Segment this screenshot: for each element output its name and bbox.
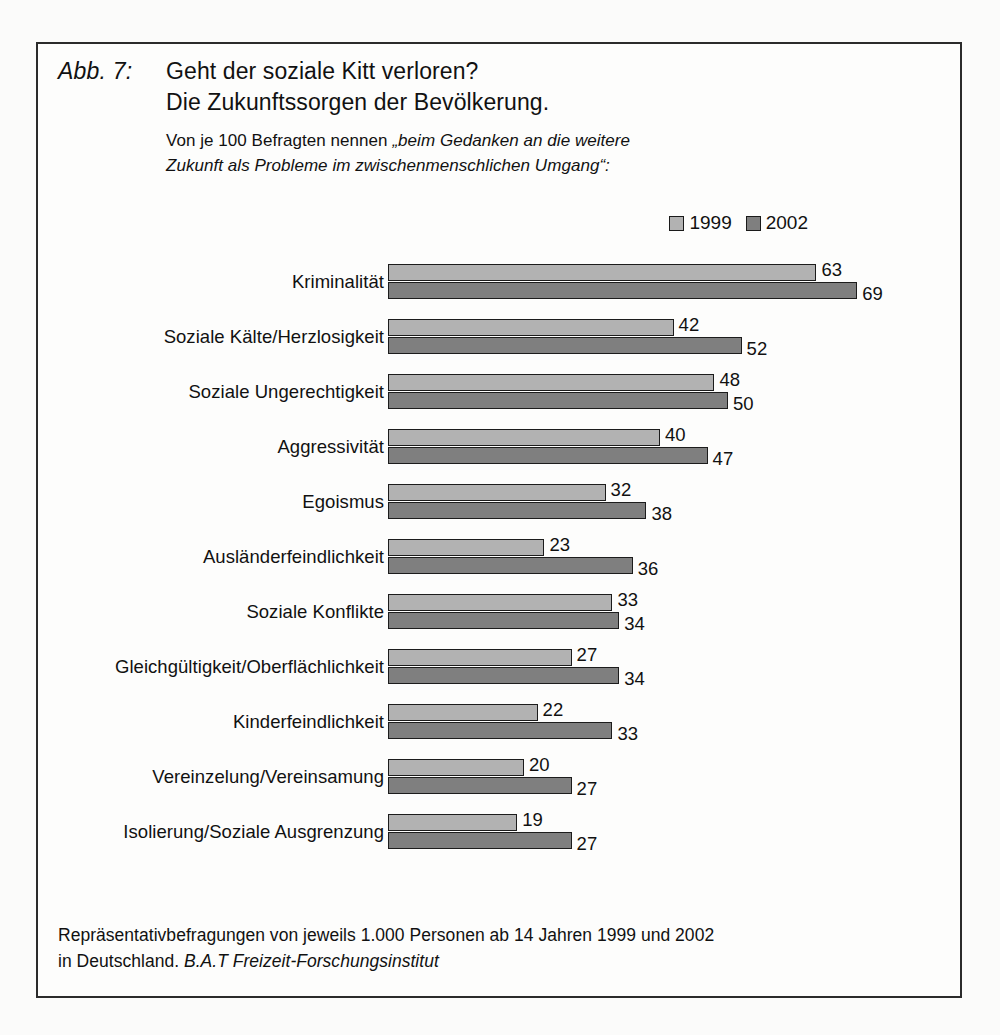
chart-row: Gleichgültigkeit/Oberflächlichkeit2734 (38, 643, 960, 698)
category-label: Gleichgültigkeit/Oberflächlichkeit (0, 656, 384, 678)
figure-number-label: Abb. 7: (58, 56, 166, 85)
bar-1999[interactable]: 19 (388, 814, 517, 831)
bar-group: 6369 (388, 264, 857, 299)
legend-entry-2002[interactable]: 2002 (746, 212, 808, 234)
bar-2002[interactable]: 69 (388, 282, 857, 299)
bar-group: 1927 (388, 814, 572, 849)
bar-1999[interactable]: 42 (388, 319, 674, 336)
figure-header: Abb. 7: Geht der soziale Kitt verloren? … (58, 56, 944, 178)
bar-group: 2233 (388, 704, 612, 739)
bar-group: 2734 (388, 649, 619, 684)
subtitle-italic-part-1: „beim Gedanken an die weitere (392, 131, 630, 150)
bar-1999[interactable]: 40 (388, 429, 660, 446)
category-label: Soziale Konflikte (0, 601, 384, 623)
category-label: Kinderfeindlichkeit (0, 711, 384, 733)
bar-group: 2336 (388, 539, 633, 574)
title-line-1: Geht der soziale Kitt verloren? (166, 56, 549, 87)
category-label: Kriminalität (0, 271, 384, 293)
bar-1999[interactable]: 22 (388, 704, 538, 721)
category-label: Soziale Ungerechtigkeit (0, 381, 384, 403)
bar-1999[interactable]: 33 (388, 594, 612, 611)
figure-frame: Abb. 7: Geht der soziale Kitt verloren? … (36, 42, 962, 998)
figure-page: Abb. 7: Geht der soziale Kitt verloren? … (0, 0, 1000, 1035)
source-line-2-plain: in Deutschland. (58, 951, 184, 971)
source-line-1: Repräsentativbefragungen von jeweils 1.0… (58, 922, 714, 948)
category-label: Egoismus (0, 491, 384, 513)
bar-group: 4047 (388, 429, 708, 464)
figure-source-note: Repräsentativbefragungen von jeweils 1.0… (58, 922, 714, 974)
bar-value-label: 34 (624, 667, 645, 689)
chart-legend: 1999 2002 (669, 212, 808, 234)
bar-value-label: 34 (624, 612, 645, 634)
bar-1999[interactable]: 27 (388, 649, 572, 666)
title-line-2: Die Zukunftssorgen der Bevölkerung. (166, 87, 549, 118)
bar-1999[interactable]: 48 (388, 374, 714, 391)
bar-2002[interactable]: 34 (388, 667, 619, 684)
bar-value-label: 20 (529, 754, 550, 776)
bar-1999[interactable]: 32 (388, 484, 606, 501)
category-label: Isolierung/Soziale Ausgrenzung (0, 821, 384, 843)
bar-value-label: 23 (549, 534, 570, 556)
legend-entry-1999[interactable]: 1999 (669, 212, 731, 234)
bar-2002[interactable]: 47 (388, 447, 708, 464)
bar-value-label: 19 (522, 809, 543, 831)
bar-group: 3334 (388, 594, 619, 629)
bar-group: 4252 (388, 319, 742, 354)
category-label: Soziale Kälte/Herzlosigkeit (0, 326, 384, 348)
bar-2002[interactable]: 52 (388, 337, 742, 354)
title-row: Abb. 7: Geht der soziale Kitt verloren? … (58, 56, 944, 118)
bar-value-label: 38 (651, 502, 672, 524)
bar-value-label: 36 (638, 557, 659, 579)
bar-value-label: 63 (821, 259, 842, 281)
chart-row: Kriminalität6369 (38, 258, 960, 313)
bar-value-label: 33 (617, 589, 638, 611)
category-label: Vereinzelung/Vereinsamung (0, 766, 384, 788)
bar-value-label: 50 (733, 392, 754, 414)
bar-chart-plot: Kriminalität6369Soziale Kälte/Herzlosigk… (38, 258, 960, 888)
bar-value-label: 27 (577, 777, 598, 799)
chart-row: Aggressivität4047 (38, 423, 960, 478)
bar-2002[interactable]: 33 (388, 722, 612, 739)
bar-1999[interactable]: 20 (388, 759, 524, 776)
chart-row: Soziale Kälte/Herzlosigkeit4252 (38, 313, 960, 368)
bar-value-label: 48 (719, 369, 740, 391)
chart-row: Ausländerfeindlichkeit2336 (38, 533, 960, 588)
legend-label-2002: 2002 (766, 212, 808, 234)
bar-value-label: 27 (577, 832, 598, 854)
category-label: Aggressivität (0, 436, 384, 458)
bar-value-label: 52 (747, 337, 768, 359)
legend-swatch-icon-1999 (669, 216, 684, 231)
bar-value-label: 69 (862, 282, 883, 304)
bar-1999[interactable]: 23 (388, 539, 544, 556)
source-line-2: in Deutschland. B.A.T Freizeit-Forschung… (58, 948, 714, 974)
legend-label-1999: 1999 (689, 212, 731, 234)
chart-row: Soziale Ungerechtigkeit4850 (38, 368, 960, 423)
bar-value-label: 40 (665, 424, 686, 446)
chart-row: Kinderfeindlichkeit2233 (38, 698, 960, 753)
bar-value-label: 22 (543, 699, 564, 721)
bar-2002[interactable]: 27 (388, 832, 572, 849)
bar-group: 2027 (388, 759, 572, 794)
bar-value-label: 33 (617, 722, 638, 744)
bar-group: 4850 (388, 374, 728, 409)
chart-row: Vereinzelung/Vereinsamung2027 (38, 753, 960, 808)
bar-2002[interactable]: 36 (388, 557, 633, 574)
chart-row: Soziale Konflikte3334 (38, 588, 960, 643)
bar-value-label: 27 (577, 644, 598, 666)
bar-2002[interactable]: 38 (388, 502, 646, 519)
legend-swatch-icon-2002 (746, 216, 761, 231)
bar-1999[interactable]: 63 (388, 264, 816, 281)
subtitle-plain-part: Von je 100 Befragten nennen (166, 131, 392, 150)
bar-2002[interactable]: 27 (388, 777, 572, 794)
bar-value-label: 47 (713, 447, 734, 469)
bar-value-label: 32 (611, 479, 632, 501)
chart-row: Isolierung/Soziale Ausgrenzung1927 (38, 808, 960, 863)
bar-2002[interactable]: 50 (388, 392, 728, 409)
page-title: Geht der soziale Kitt verloren? Die Zuku… (166, 56, 549, 118)
bar-value-label: 42 (679, 314, 700, 336)
bar-2002[interactable]: 34 (388, 612, 619, 629)
subtitle-italic-part-2: Zukunft als Probleme im zwischenmenschli… (166, 156, 610, 175)
source-line-2-italic: B.A.T Freizeit-Forschungsinstitut (184, 951, 439, 971)
chart-row: Egoismus3238 (38, 478, 960, 533)
bar-group: 3238 (388, 484, 646, 519)
